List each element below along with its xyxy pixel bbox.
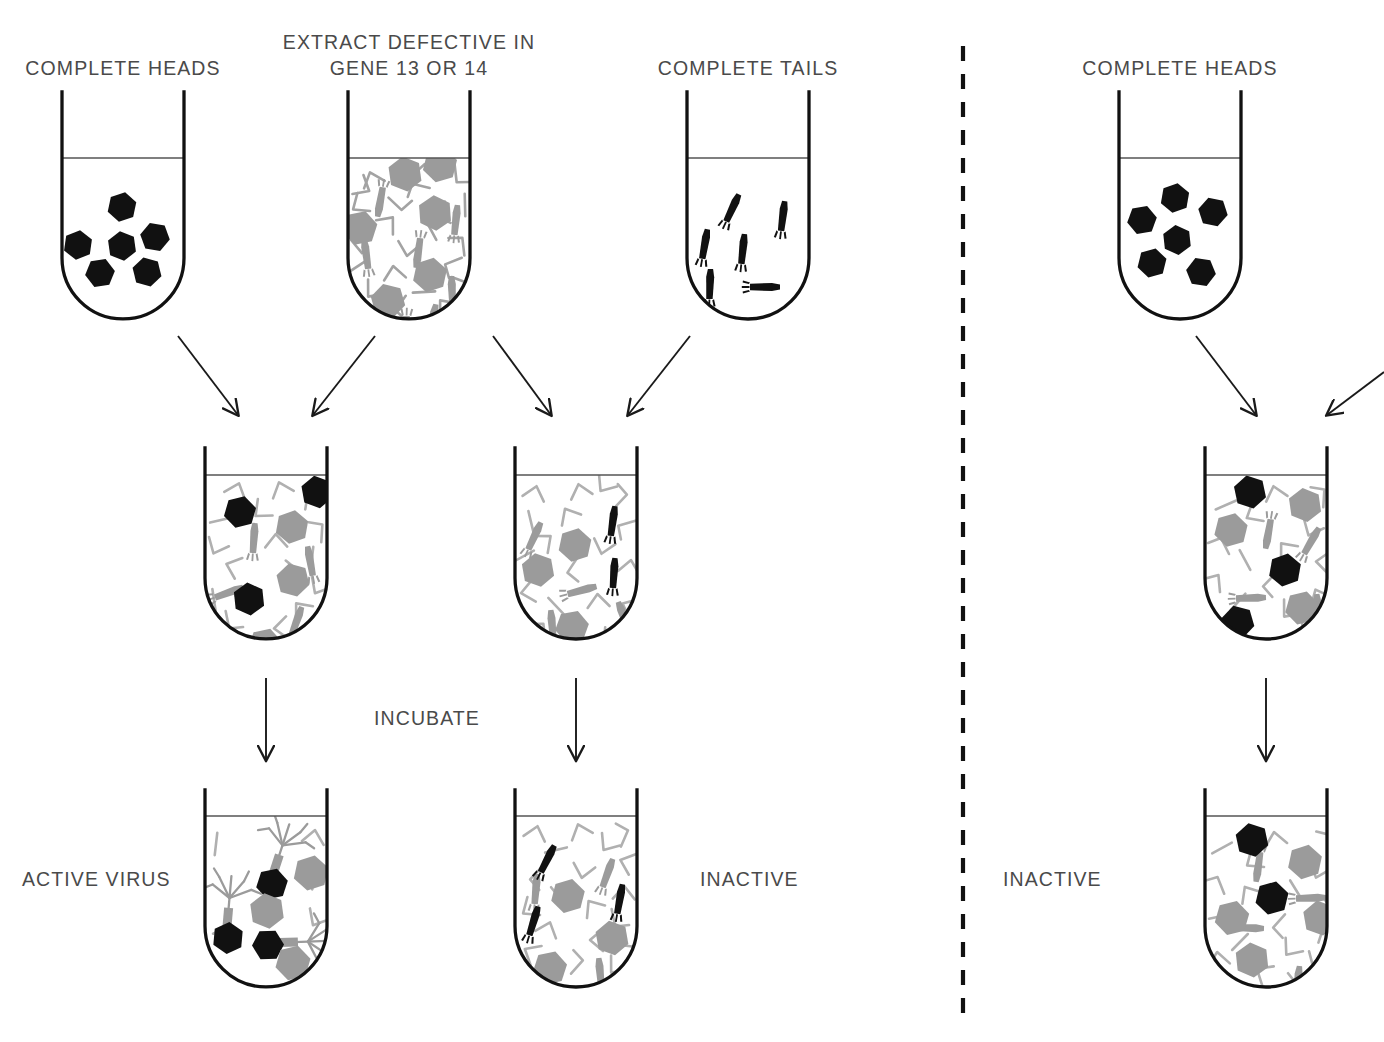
figure-canvas: COMPLETE HEADS EXTRACT DEFECTIVE IN GENE… xyxy=(0,0,1384,1042)
tube-mix-heads-extract xyxy=(203,448,333,666)
tube-contents xyxy=(1203,820,1339,1005)
arrow-offscreen-to-mix3 xyxy=(1327,372,1384,415)
tube-contents xyxy=(1125,181,1230,291)
arrow-heads-to-mix1 xyxy=(178,336,238,415)
tube-mix-heads-extract-right xyxy=(1202,448,1331,658)
tube-result-inactive-right xyxy=(1203,790,1339,1005)
tube-extract-defective xyxy=(340,92,474,346)
tube-mix-tails-extract xyxy=(514,448,642,667)
tube-complete-tails xyxy=(687,92,809,319)
arrow-group-row2 xyxy=(266,678,1266,760)
arrow-heads-right-to-mix3 xyxy=(1196,336,1256,415)
tube-complete-heads-left xyxy=(62,92,184,319)
tube-contents xyxy=(694,192,791,308)
black-head-group xyxy=(1125,181,1230,291)
arrow-extract-to-mix2 xyxy=(493,336,551,415)
arrow-group-row1 xyxy=(178,336,1384,415)
tube-outline xyxy=(205,448,327,639)
arrow-extract-to-mix1 xyxy=(313,336,375,415)
tube-contents xyxy=(340,144,474,346)
black-tail-group xyxy=(694,192,791,308)
diagram-graphics xyxy=(0,0,1384,1042)
tube-contents xyxy=(63,190,172,292)
tube-complete-heads-right xyxy=(1119,92,1241,319)
gray-head-group xyxy=(340,144,459,322)
tube-result-inactive-middle xyxy=(515,790,639,997)
arrow-tails-to-mix2 xyxy=(628,336,690,415)
tube-result-active-virus xyxy=(197,790,337,987)
black-head-group xyxy=(63,190,172,292)
tube-contents xyxy=(203,473,333,666)
tube-contents xyxy=(1202,473,1331,658)
black-head-group xyxy=(222,473,334,617)
tube-outline xyxy=(687,92,809,319)
